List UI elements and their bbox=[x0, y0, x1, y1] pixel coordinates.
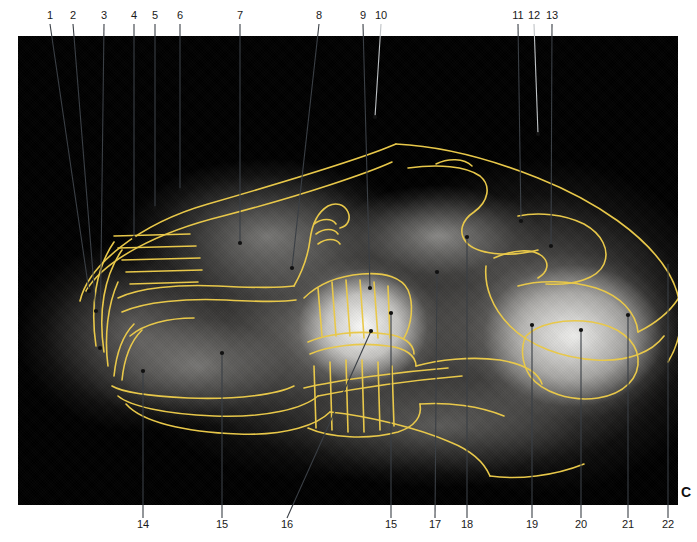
label-number: 15 bbox=[212, 519, 232, 530]
label-number: 21 bbox=[618, 519, 638, 530]
label-number: 20 bbox=[571, 519, 591, 530]
trace-path bbox=[518, 214, 606, 284]
trace-path bbox=[638, 292, 678, 332]
trace-path bbox=[308, 332, 414, 354]
trace-path bbox=[106, 282, 118, 366]
trace-path bbox=[126, 404, 330, 434]
trace-path bbox=[420, 404, 504, 417]
trace-path bbox=[112, 386, 294, 398]
label-number: 5 bbox=[145, 10, 165, 21]
trace-path bbox=[294, 204, 349, 286]
label-number: 8 bbox=[309, 10, 329, 21]
label-number: 10 bbox=[371, 10, 391, 21]
trace-path bbox=[436, 160, 472, 166]
trace-path bbox=[486, 266, 664, 360]
label-number: 2 bbox=[63, 10, 83, 21]
trace-path bbox=[316, 230, 338, 235]
label-number: 19 bbox=[522, 519, 542, 530]
trace-path bbox=[494, 251, 547, 278]
trace-path bbox=[314, 220, 336, 225]
labeled-radiograph-figure: 12345678910111213 14151615171819202122 C bbox=[0, 0, 697, 542]
label-number: 12 bbox=[524, 10, 544, 21]
panel-letter: C bbox=[681, 484, 691, 500]
trace-path bbox=[118, 286, 294, 299]
trace-path bbox=[318, 240, 340, 245]
trace-path bbox=[310, 344, 416, 366]
label-number: 15 bbox=[381, 519, 401, 530]
label-number: 9 bbox=[353, 10, 373, 21]
trace-path bbox=[408, 166, 538, 254]
label-number: 1 bbox=[40, 10, 60, 21]
label-number: 4 bbox=[124, 10, 144, 21]
label-number: 6 bbox=[170, 10, 190, 21]
trace-path bbox=[490, 464, 584, 478]
label-number: 13 bbox=[542, 10, 562, 21]
trace-path bbox=[304, 368, 448, 388]
label-number: 18 bbox=[457, 519, 477, 530]
label-number: 14 bbox=[133, 519, 153, 530]
label-number: 17 bbox=[425, 519, 445, 530]
label-number: 16 bbox=[277, 519, 297, 530]
trace-path bbox=[122, 300, 296, 313]
radiograph-image bbox=[18, 36, 678, 505]
label-number: 3 bbox=[94, 10, 114, 21]
anatomical-trace-overlay bbox=[18, 36, 678, 505]
label-number: 7 bbox=[230, 10, 250, 21]
trace-path bbox=[318, 376, 462, 396]
trace-path bbox=[518, 282, 638, 332]
trace-path bbox=[330, 412, 490, 476]
trace-path bbox=[318, 280, 390, 338]
label-number: 22 bbox=[658, 519, 678, 530]
